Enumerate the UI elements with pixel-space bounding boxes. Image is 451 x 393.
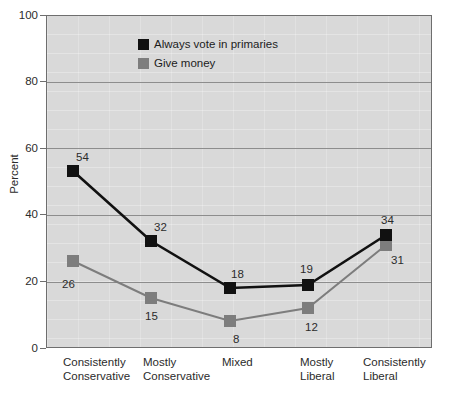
- y-tick-mark-20: [40, 281, 46, 282]
- data-label-give-money-3: 12: [305, 322, 318, 334]
- legend-item-always-vote: Always vote in primaries: [138, 36, 278, 53]
- y-tick-label-80: 80: [6, 76, 38, 88]
- legend-label-give-money: Give money: [154, 58, 215, 70]
- data-label-always-vote-2: 18: [231, 269, 244, 281]
- y-tick-mark-0: [40, 348, 46, 349]
- data-label-always-vote-1: 32: [154, 222, 167, 234]
- legend-swatch-dark-icon: [138, 39, 149, 50]
- y-axis-title: Percent: [8, 144, 20, 204]
- y-tick-mark-80: [40, 81, 46, 82]
- y-tick-label-0: 0: [6, 343, 38, 355]
- x-category-line-2: Conservative: [143, 370, 253, 384]
- line-chart: 100 80 60 40 20 0 Percent Always vote in…: [0, 0, 451, 393]
- y-tick-mark-60: [40, 148, 46, 149]
- data-label-give-money-0: 26: [62, 279, 75, 291]
- data-label-give-money-4: 31: [391, 255, 404, 267]
- y-tick-label-40: 40: [6, 209, 38, 221]
- legend-label-always-vote: Always vote in primaries: [154, 39, 278, 51]
- y-tick-label-20: 20: [6, 276, 38, 288]
- data-label-always-vote-4: 34: [381, 215, 394, 227]
- y-tick-mark-100: [40, 15, 46, 16]
- data-label-always-vote-0: 54: [76, 152, 89, 164]
- x-category-line-2: Liberal: [363, 370, 451, 384]
- x-category-consistently-liberal: Consistently Liberal: [363, 356, 451, 383]
- legend-swatch-gray-icon: [138, 58, 149, 69]
- data-label-always-vote-3: 19: [300, 264, 313, 276]
- x-category-line-1: Consistently: [363, 356, 451, 370]
- data-label-give-money-1: 15: [145, 311, 158, 323]
- legend: Always vote in primaries Give money: [138, 36, 278, 74]
- data-label-give-money-2: 8: [233, 334, 239, 346]
- y-tick-mark-40: [40, 214, 46, 215]
- legend-item-give-money: Give money: [138, 55, 278, 72]
- y-tick-label-100: 100: [6, 10, 38, 22]
